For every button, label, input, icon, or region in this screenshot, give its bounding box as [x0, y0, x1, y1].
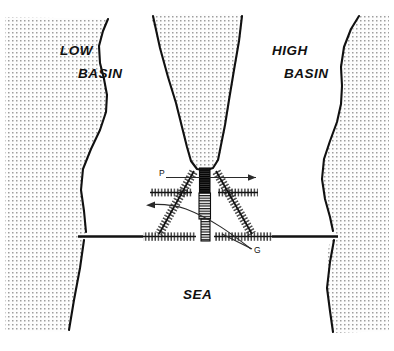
arrow-right-p-head [248, 174, 256, 180]
label-structure-g: G [254, 245, 261, 255]
low-basin-region [5, 17, 108, 332]
barrier-g-band [201, 219, 210, 241]
label-low-basin-line1: LOW [60, 43, 93, 58]
estuary-channel-region [150, 14, 243, 170]
high-basin-region [322, 14, 389, 333]
arrow-left-g-head [146, 202, 155, 209]
diagram-canvas: LOW BASIN HIGH BASIN SEA P G [0, 0, 394, 351]
central-barriers [199, 168, 211, 241]
label-structure-p: P [159, 168, 165, 178]
dike-diagonal-left [155, 169, 198, 236]
label-high-basin-line2: BASIN [284, 66, 329, 81]
label-high-basin-line1: HIGH [272, 43, 308, 58]
label-sea: SEA [183, 287, 212, 302]
sea-wall-ticks-left [143, 232, 196, 240]
sea-wall-ticks-right [214, 232, 272, 240]
barrier-p-band [200, 168, 211, 193]
label-low-basin-line2: BASIN [78, 66, 123, 81]
